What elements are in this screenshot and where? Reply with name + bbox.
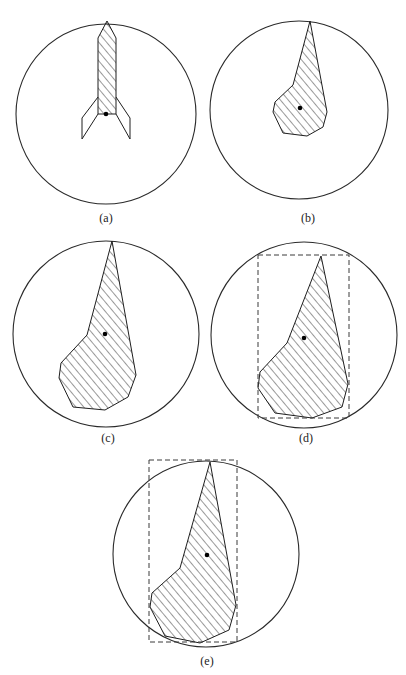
- panel-a: (a): [16, 21, 196, 225]
- hatched-shape: [98, 21, 116, 114]
- centroid-dot: [104, 112, 109, 117]
- panel-e: (e): [113, 460, 299, 668]
- panel-label: (d): [299, 431, 313, 445]
- panel-b: (b): [210, 21, 388, 225]
- panel-label: (b): [301, 211, 315, 225]
- panel-c: (c): [13, 241, 199, 445]
- panel-label: (e): [200, 654, 213, 668]
- centroid-dot: [103, 332, 108, 337]
- hatched-shape: [59, 241, 136, 410]
- hatched-shape: [150, 462, 236, 643]
- panel-label: (a): [99, 211, 112, 225]
- fin-outline: [82, 97, 98, 139]
- fin-outline: [116, 97, 130, 139]
- panel-label: (c): [101, 431, 114, 445]
- centroid-dot: [298, 106, 303, 111]
- centroid-dot: [302, 336, 307, 341]
- hatched-shape: [273, 21, 327, 136]
- rocket-rotation-diagram: (a) (b) (c) (d) (e): [0, 0, 406, 675]
- panel-d: (d): [211, 242, 397, 445]
- centroid-dot: [205, 553, 210, 558]
